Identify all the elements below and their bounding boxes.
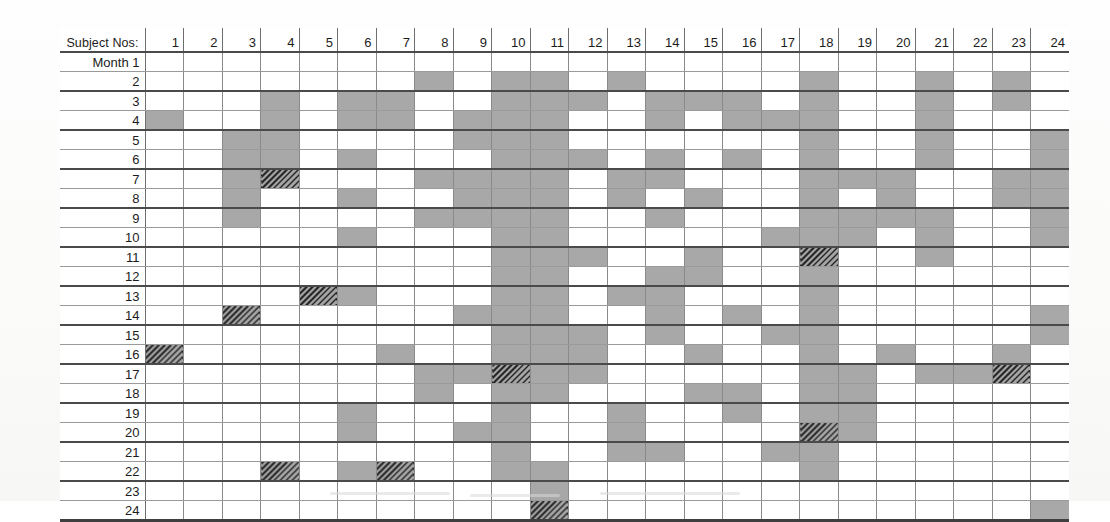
matrix-cell[interactable] xyxy=(376,423,415,443)
matrix-cell[interactable] xyxy=(1031,384,1070,404)
matrix-cell[interactable] xyxy=(569,286,608,306)
matrix-cell[interactable] xyxy=(992,111,1031,131)
matrix-cell[interactable] xyxy=(492,325,531,345)
matrix-cell[interactable] xyxy=(838,306,877,326)
matrix-cell[interactable] xyxy=(992,208,1031,228)
row-header-2[interactable]: 2 xyxy=(60,72,145,92)
matrix-cell[interactable] xyxy=(992,91,1031,111)
matrix-cell[interactable] xyxy=(684,286,723,306)
matrix-cell[interactable] xyxy=(415,91,454,111)
matrix-cell[interactable] xyxy=(992,267,1031,287)
matrix-cell[interactable] xyxy=(723,208,762,228)
matrix-cell[interactable] xyxy=(954,72,993,92)
matrix-cell[interactable] xyxy=(1031,481,1070,501)
matrix-cell[interactable] xyxy=(1031,267,1070,287)
matrix-cell[interactable] xyxy=(145,228,184,248)
row-header-11[interactable]: 11 xyxy=(60,247,145,267)
matrix-cell[interactable] xyxy=(915,91,954,111)
matrix-cell[interactable] xyxy=(915,306,954,326)
matrix-cell[interactable] xyxy=(184,462,223,482)
matrix-cell[interactable] xyxy=(261,306,300,326)
matrix-cell[interactable] xyxy=(415,189,454,209)
matrix-cell[interactable] xyxy=(1031,150,1070,170)
matrix-cell[interactable] xyxy=(145,306,184,326)
matrix-cell[interactable] xyxy=(492,72,531,92)
matrix-cell[interactable] xyxy=(376,150,415,170)
matrix-cell[interactable] xyxy=(607,130,646,150)
matrix-cell[interactable] xyxy=(261,130,300,150)
matrix-cell[interactable] xyxy=(415,345,454,365)
matrix-cell[interactable] xyxy=(915,345,954,365)
row-header-23[interactable]: 23 xyxy=(60,481,145,501)
matrix-cell[interactable] xyxy=(569,91,608,111)
matrix-cell[interactable] xyxy=(877,267,916,287)
row-header-16[interactable]: 16 xyxy=(60,345,145,365)
matrix-cell[interactable] xyxy=(761,384,800,404)
matrix-cell[interactable] xyxy=(877,111,916,131)
matrix-cell[interactable] xyxy=(569,501,608,521)
matrix-cell[interactable] xyxy=(684,91,723,111)
matrix-cell[interactable] xyxy=(299,481,338,501)
matrix-cell[interactable] xyxy=(492,403,531,423)
matrix-cell[interactable] xyxy=(145,384,184,404)
matrix-cell[interactable] xyxy=(222,247,261,267)
matrix-cell[interactable] xyxy=(723,364,762,384)
matrix-cell[interactable] xyxy=(877,501,916,521)
matrix-cell[interactable] xyxy=(838,325,877,345)
matrix-cell[interactable] xyxy=(338,208,377,228)
matrix-cell[interactable] xyxy=(415,247,454,267)
matrix-cell[interactable] xyxy=(376,169,415,189)
matrix-cell[interactable] xyxy=(145,189,184,209)
matrix-cell[interactable] xyxy=(761,501,800,521)
matrix-cell[interactable] xyxy=(915,208,954,228)
matrix-cell[interactable] xyxy=(569,345,608,365)
matrix-cell[interactable] xyxy=(530,267,569,287)
matrix-cell[interactable] xyxy=(376,442,415,462)
matrix-cell[interactable] xyxy=(338,306,377,326)
matrix-cell[interactable] xyxy=(954,384,993,404)
matrix-cell[interactable] xyxy=(954,208,993,228)
matrix-cell[interactable] xyxy=(761,72,800,92)
matrix-cell[interactable] xyxy=(954,306,993,326)
matrix-cell[interactable] xyxy=(299,364,338,384)
matrix-cell[interactable] xyxy=(453,403,492,423)
matrix-cell[interactable] xyxy=(145,501,184,521)
row-header-15[interactable]: 15 xyxy=(60,325,145,345)
matrix-cell[interactable] xyxy=(222,325,261,345)
matrix-cell[interactable] xyxy=(800,208,839,228)
matrix-cell[interactable] xyxy=(877,462,916,482)
matrix-cell[interactable] xyxy=(607,345,646,365)
matrix-cell[interactable] xyxy=(915,52,954,72)
matrix-cell[interactable] xyxy=(222,91,261,111)
matrix-cell[interactable] xyxy=(415,306,454,326)
row-header-13[interactable]: 13 xyxy=(60,286,145,306)
matrix-cell[interactable] xyxy=(838,150,877,170)
matrix-cell[interactable] xyxy=(530,169,569,189)
matrix-cell[interactable] xyxy=(415,481,454,501)
matrix-cell[interactable] xyxy=(915,325,954,345)
matrix-cell[interactable] xyxy=(684,267,723,287)
matrix-cell[interactable] xyxy=(338,247,377,267)
matrix-cell[interactable] xyxy=(1031,91,1070,111)
matrix-cell[interactable] xyxy=(838,228,877,248)
matrix-cell[interactable] xyxy=(992,462,1031,482)
row-header-17[interactable]: 17 xyxy=(60,364,145,384)
matrix-cell[interactable] xyxy=(646,325,685,345)
matrix-cell[interactable] xyxy=(761,306,800,326)
matrix-cell[interactable] xyxy=(954,286,993,306)
matrix-cell[interactable] xyxy=(530,423,569,443)
matrix-cell[interactable] xyxy=(954,111,993,131)
matrix-cell[interactable] xyxy=(184,364,223,384)
matrix-cell[interactable] xyxy=(453,189,492,209)
matrix-cell[interactable] xyxy=(877,72,916,92)
matrix-cell[interactable] xyxy=(915,442,954,462)
matrix-cell[interactable] xyxy=(1031,325,1070,345)
matrix-cell[interactable] xyxy=(222,169,261,189)
column-header-18[interactable]: 18 xyxy=(800,28,839,52)
matrix-cell[interactable] xyxy=(992,52,1031,72)
matrix-cell[interactable] xyxy=(723,130,762,150)
matrix-cell[interactable] xyxy=(800,52,839,72)
matrix-cell[interactable] xyxy=(607,364,646,384)
matrix-cell[interactable] xyxy=(145,130,184,150)
matrix-cell[interactable] xyxy=(800,501,839,521)
